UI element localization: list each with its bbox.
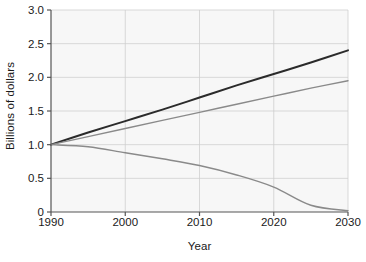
y-axis-title: Billions of dollars	[2, 0, 18, 212]
x-axis-title: Year	[51, 240, 348, 252]
